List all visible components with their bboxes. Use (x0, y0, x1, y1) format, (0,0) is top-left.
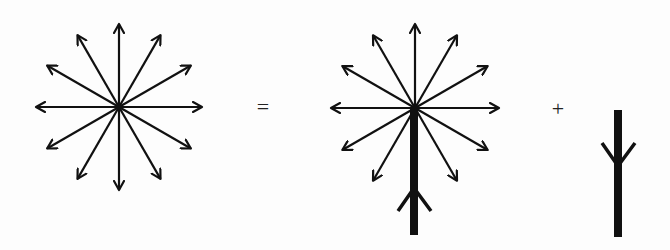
single-bar-figure (602, 110, 635, 237)
equals-sign: = (257, 96, 269, 118)
thick-bar (410, 108, 418, 235)
diagram-canvas (0, 0, 670, 250)
star-center-point (116, 104, 122, 110)
full-star-figure (36, 24, 202, 190)
star-with-bar-figure (331, 24, 499, 235)
plus-sign: + (552, 98, 564, 120)
thick-bar (614, 110, 622, 237)
